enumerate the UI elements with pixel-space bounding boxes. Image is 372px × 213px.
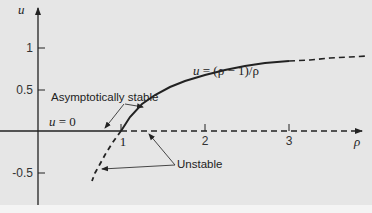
x-tick-label-3: 3 <box>286 134 293 148</box>
y-axis-label: u <box>18 2 25 17</box>
x-tick-label-2: 2 <box>202 134 209 148</box>
curve-equation-label: u = (ρ − 1)/ρ <box>193 63 259 78</box>
bottom-margin <box>0 205 372 213</box>
unstable-label: Unstable <box>177 158 222 170</box>
y-tick-label-1: 1 <box>26 41 33 55</box>
y-tick-label-0.5: 0.5 <box>16 83 33 97</box>
bifurcation-chart: 1 0.5 -0.5 u 1 2 3 ρ u = (ρ − 1)/ρ u = 0… <box>0 0 372 213</box>
asymptotically-stable-label: Asymptotically stable <box>51 91 158 103</box>
chart-background <box>0 0 372 213</box>
x-axis-label: ρ <box>353 134 360 149</box>
x-tick-label-1: 1 <box>120 134 127 149</box>
y-tick-label-neg0.5: -0.5 <box>12 166 33 180</box>
u-zero-label: u = 0 <box>49 114 76 129</box>
